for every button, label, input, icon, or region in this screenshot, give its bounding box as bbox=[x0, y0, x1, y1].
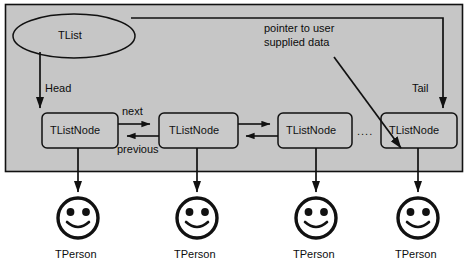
diagram-vector-layer bbox=[0, 0, 469, 280]
tperson-label-1: TPerson bbox=[55, 248, 97, 261]
tperson-label-3: TPerson bbox=[293, 248, 335, 261]
tlistnode-label-1: TListNode bbox=[50, 124, 100, 136]
head-label: Head bbox=[45, 82, 71, 95]
tlist-label: TList bbox=[58, 29, 82, 42]
annotation-line-1: pointer to user bbox=[264, 22, 334, 35]
next-label: next bbox=[122, 105, 143, 118]
smiley-face-icon-1 bbox=[58, 198, 98, 238]
tail-label: Tail bbox=[412, 82, 429, 95]
previous-label: previous bbox=[117, 143, 159, 156]
smiley-face-icon-2 bbox=[177, 198, 217, 238]
smiley-face-icon-4 bbox=[398, 198, 438, 238]
tlistnode-label-2: TListNode bbox=[169, 124, 219, 136]
ellipsis-label: .... bbox=[357, 125, 373, 137]
tlistnode-label-4: TListNode bbox=[389, 124, 439, 136]
annotation-line-2: supplied data bbox=[264, 36, 329, 49]
tlistnode-label-3: TListNode bbox=[286, 124, 336, 136]
diagram-canvas: TList Head Tail next previous pointer to… bbox=[0, 0, 469, 280]
tperson-label-4: TPerson bbox=[395, 248, 437, 261]
smiley-face-icon-3 bbox=[296, 198, 336, 238]
tperson-label-2: TPerson bbox=[174, 248, 216, 261]
